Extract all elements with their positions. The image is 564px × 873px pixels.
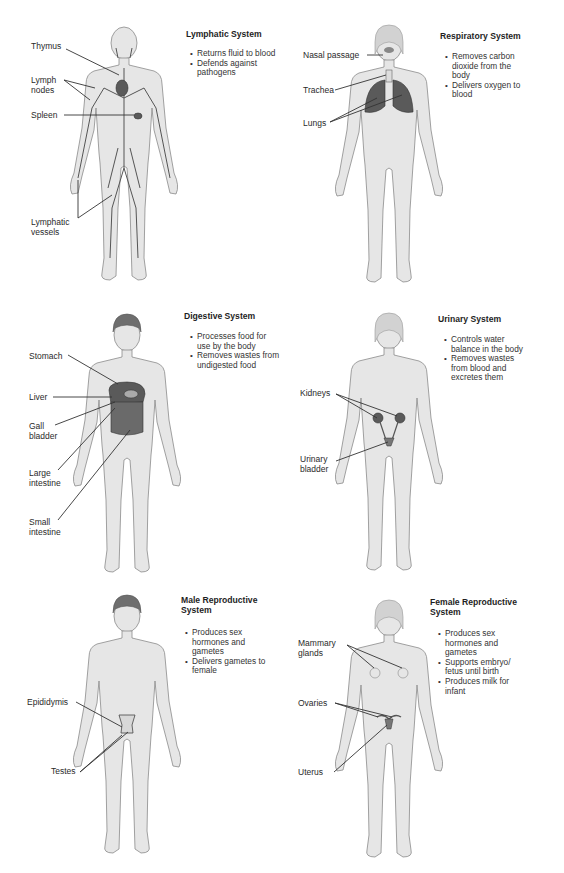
function-item: Controls water balance in the body	[444, 335, 529, 354]
function-item: Supports embryo/ fetus until birth	[438, 658, 528, 677]
label-uterus: Uterus	[298, 767, 323, 777]
panel-title: Female Reproductive System	[430, 597, 517, 617]
function-item: Removes wastes from undigested food	[190, 351, 280, 370]
respiratory-figure	[282, 0, 564, 290]
label-kidneys: Kidneys	[300, 388, 330, 398]
label-epididymis: Epididymis	[27, 697, 68, 707]
label-liver: Liver	[29, 392, 47, 402]
function-item: Produces sex hormones and gametes	[185, 628, 275, 657]
panel-digestive-system: Stomach Liver Gall bladder Large intesti…	[0, 300, 282, 580]
panel-title: Urinary System	[438, 314, 501, 324]
label-lungs: Lungs	[303, 118, 326, 128]
label-mammary-glands: Mammary glands	[298, 638, 336, 658]
label-spleen: Spleen	[31, 110, 57, 120]
label-large-intestine: Large intestine	[29, 468, 61, 488]
label-trachea: Trachea	[303, 85, 334, 95]
panel-male-reproductive-system: Epididymis Testes Male Reproductive Syst…	[0, 585, 282, 873]
panel-urinary-system: Kidneys Urinary bladder Urinary System C…	[282, 300, 564, 580]
function-list: Produces sex hormones and gametes Suppor…	[438, 629, 528, 696]
function-list: Controls water balance in the body Remov…	[444, 335, 529, 383]
function-item: Produces sex hormones and gametes	[438, 629, 528, 658]
panel-title: Lymphatic System	[186, 29, 262, 39]
panel-title: Digestive System	[184, 311, 255, 321]
function-list: Removes carbon dioxide from the body Del…	[445, 52, 530, 100]
function-item: Removes carbon dioxide from the body	[445, 52, 530, 81]
panel-female-reproductive-system: Mammary glands Ovaries Uterus Female Rep…	[282, 585, 564, 873]
function-item: Processes food for use by the body	[190, 332, 280, 351]
label-lymph-nodes: Lymph nodes	[31, 75, 56, 95]
label-urinary-bladder: Urinary bladder	[300, 454, 328, 474]
label-stomach: Stomach	[29, 351, 63, 361]
label-testes: Testes	[51, 766, 76, 776]
function-item: Delivers gametes to female	[185, 657, 275, 676]
function-list: Returns fluid to blood Defends against p…	[190, 49, 280, 78]
label-gall-bladder: Gall bladder	[29, 421, 57, 441]
panel-lymphatic-system: Thymus Lymph nodes Spleen Lymphatic vess…	[0, 0, 282, 290]
function-item: Removes wastes from blood and excretes t…	[444, 354, 529, 383]
panel-title: Respiratory System	[440, 31, 521, 41]
function-item: Delivers oxygen to blood	[445, 81, 530, 100]
label-ovaries: Ovaries	[298, 698, 327, 708]
panel-respiratory-system: Nasal passage Trachea Lungs Respiratory …	[282, 0, 564, 290]
function-list: Produces sex hormones and gametes Delive…	[185, 628, 275, 676]
label-small-intestine: Small intestine	[29, 517, 61, 537]
label-lymphatic-vessels: Lymphatic vessels	[31, 217, 69, 237]
function-list: Processes food for use by the body Remov…	[190, 332, 280, 370]
function-item: Produces milk for infant	[438, 677, 528, 696]
panel-title: Male Reproductive System	[181, 595, 257, 615]
label-nasal-passage: Nasal passage	[303, 50, 359, 60]
label-thymus: Thymus	[31, 41, 61, 51]
function-item: Defends against pathogens	[190, 59, 280, 78]
